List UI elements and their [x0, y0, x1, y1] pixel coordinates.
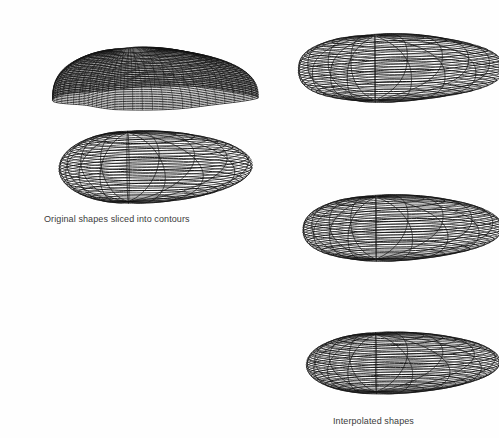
original-blob-sliced-shape	[8, 115, 246, 213]
caption-interpolated-shapes: Interpolated shapes	[333, 416, 414, 427]
contour-slice-stack	[52, 47, 258, 110]
caption-original-shapes: Original shapes sliced into contours	[44, 214, 190, 225]
interp-1-mesh-group	[298, 34, 499, 103]
blob-wireframe-svg	[8, 115, 246, 213]
interp-3-svg	[258, 308, 494, 418]
interp-2-svg	[258, 168, 494, 288]
interpolated-shape-3	[258, 308, 494, 418]
blob-mesh-group	[59, 131, 253, 204]
interp-1-svg	[255, 6, 495, 128]
interpolated-shape-1	[255, 6, 495, 128]
interp-3-mesh-group	[306, 332, 499, 394]
interp-2-mesh-group	[303, 195, 499, 262]
figure-canvas: Original shapes sliced into contours Int…	[0, 0, 499, 438]
interpolated-shape-2	[258, 168, 494, 288]
car-sliced-contours-svg	[18, 6, 238, 116]
original-car-sliced-shape	[18, 6, 238, 116]
